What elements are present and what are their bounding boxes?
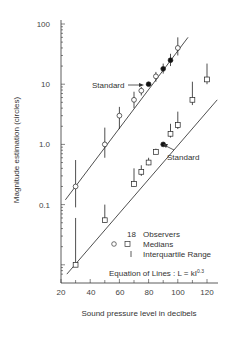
circle-marker [139,88,144,93]
filled-circle-marker [161,66,166,71]
square-marker [139,169,144,174]
legend-square-icon [125,242,130,247]
x-tick-label-100: 100 [171,288,185,297]
y-axis-title: Magnitude estimation (circles) [12,97,21,204]
circle-marker [175,46,180,51]
square-marker [154,150,159,155]
square-marker [190,97,195,102]
square-marker [205,77,210,82]
axes [61,20,218,283]
x-tick-label-20: 20 [57,288,66,297]
standard-label-lower: Standard [167,153,199,162]
equation-exponent: 0.3 [197,268,204,274]
legend-observers: Observers [143,230,180,239]
y-tick-label-0.1: 0.1 [39,201,51,210]
y-tick-label-10: 10 [41,80,50,89]
y-ticks [61,24,65,274]
square-marker [168,131,173,136]
filled-circle-marker [146,82,151,87]
standard-arrow-lower [166,146,174,150]
arrow-head-icon [139,83,144,87]
circle-marker [154,74,159,79]
square-marker [175,123,180,128]
y-tick-label-100: 100 [37,20,51,29]
equation-body: Equation of Lines : L = kI [109,269,197,278]
circle-marker [117,113,122,118]
chart-canvas: 100 10 1.0 0.1 20 40 60 80 100 120 Sound… [0,0,233,337]
x-axis-title: Sound pressure level in decibels [81,309,196,318]
y-tick-label-1: 1.0 [39,140,51,149]
circle-marker [132,97,137,102]
standard-label-upper: Standard [92,81,124,90]
square-marker [102,218,107,223]
x-tick-label-40: 40 [87,288,96,297]
x-tick-label-60: 60 [116,288,125,297]
filled-circle-marker [168,58,173,63]
legend-count: 18 [127,230,136,239]
x-tick-label-120: 120 [200,288,214,297]
x-ticks [61,279,207,283]
x-tick-label-80: 80 [145,288,154,297]
square-marker [146,160,151,165]
square-marker [73,262,78,267]
series-circles [65,37,188,207]
legend-circle-icon [112,242,117,247]
legend-medians: Medians [143,240,173,249]
legend-iqr: Interquartile Range [143,250,212,259]
circle-marker [73,184,78,189]
equation-text: Equation of Lines : L = kI0.3 [109,268,204,278]
square-marker [132,182,137,187]
circle-marker [102,142,107,147]
legend: 18 Observers Medians Interquartile Range [112,230,212,259]
